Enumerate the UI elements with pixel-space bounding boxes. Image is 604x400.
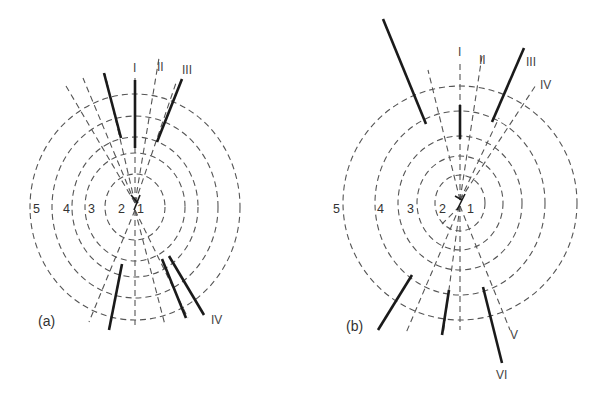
panel-a: 1 2 3 4 5 I II III IV (a) <box>30 58 240 330</box>
dashed-line-V <box>460 206 510 330</box>
solid-line-bottom-center <box>442 290 449 335</box>
line-label-III: III <box>182 63 192 77</box>
dashed-line-left-3 <box>66 86 135 203</box>
solid-line-III <box>157 79 182 142</box>
line-label-I: I <box>458 45 461 59</box>
ring-label-4: 4 <box>377 202 384 216</box>
solid-line-III <box>492 48 524 122</box>
solid-line-left-long <box>383 19 426 124</box>
panel-b: 1 2 3 4 5 I II III IV V VI (b) <box>333 19 577 382</box>
panel-label-a: (a) <box>38 313 55 329</box>
line-label-V: V <box>510 328 518 342</box>
line-label-VI: VI <box>496 368 507 382</box>
dashed-line-bottom-left <box>89 210 135 322</box>
ring-label-2: 2 <box>118 202 125 216</box>
panel-label-b: (b) <box>346 318 363 334</box>
line-label-II: II <box>479 53 486 67</box>
ring-label-5: 5 <box>333 202 340 216</box>
line-label-I: I <box>133 61 136 75</box>
line-label-II: II <box>157 60 164 74</box>
solid-line-VI <box>483 287 502 363</box>
panel-b-dashed-lines <box>406 56 536 335</box>
ring-label-5: 5 <box>33 202 40 216</box>
ring-label-3: 3 <box>407 202 414 216</box>
ring-label-1: 1 <box>467 202 474 216</box>
line-label-IV: IV <box>540 78 551 92</box>
dashed-line-left <box>428 70 460 200</box>
dashed-line-II-top <box>460 56 482 200</box>
diagram-canvas: 1 2 3 4 5 I II III IV (a) <box>0 0 604 400</box>
solid-line-left <box>104 73 121 138</box>
solid-line-bottom-left <box>378 275 412 330</box>
line-label-III: III <box>526 55 536 69</box>
panel-a-dashed-lines <box>66 58 188 325</box>
dashed-line-bottom-right <box>135 210 165 325</box>
ring-label-3: 3 <box>88 202 95 216</box>
solid-line-bottom-right-1 <box>162 259 186 318</box>
line-label-IV: IV <box>211 313 222 327</box>
ring-label-2: 2 <box>439 202 446 216</box>
ring-label-4: 4 <box>63 202 70 216</box>
dashed-line-II-top <box>135 58 159 203</box>
ring-label-1: 1 <box>137 202 144 216</box>
